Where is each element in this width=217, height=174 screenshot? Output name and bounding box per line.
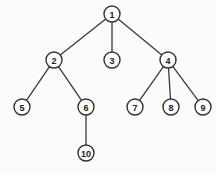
tree-node-4: 4 <box>160 52 176 68</box>
tree-node-2: 2 <box>46 52 62 68</box>
tree-node-3: 3 <box>104 52 120 68</box>
node-label: 4 <box>165 56 170 66</box>
node-label: 5 <box>19 103 24 113</box>
edges-layer <box>27 19 199 145</box>
tree-node-1: 1 <box>104 6 120 22</box>
node-label: 6 <box>83 103 88 113</box>
edge-2-5 <box>27 67 50 101</box>
edge-4-7 <box>140 67 164 101</box>
edge-1-4 <box>118 19 162 55</box>
tree-diagram: 12345678910 <box>0 0 217 174</box>
node-label: 10 <box>81 149 91 159</box>
node-label: 1 <box>109 10 114 20</box>
tree-node-5: 5 <box>14 99 30 115</box>
tree-node-8: 8 <box>163 99 179 115</box>
edge-1-2 <box>60 19 105 55</box>
edge-4-8 <box>169 68 171 99</box>
tree-node-6: 6 <box>78 99 94 115</box>
node-label: 9 <box>200 103 205 113</box>
tree-node-10: 10 <box>78 145 94 161</box>
node-label: 8 <box>168 103 173 113</box>
node-label: 7 <box>132 103 137 113</box>
tree-node-9: 9 <box>195 99 211 115</box>
tree-node-7: 7 <box>127 99 143 115</box>
node-label: 2 <box>51 56 56 66</box>
edge-2-6 <box>59 67 82 101</box>
edge-4-9 <box>173 66 198 100</box>
node-label: 3 <box>109 56 114 66</box>
